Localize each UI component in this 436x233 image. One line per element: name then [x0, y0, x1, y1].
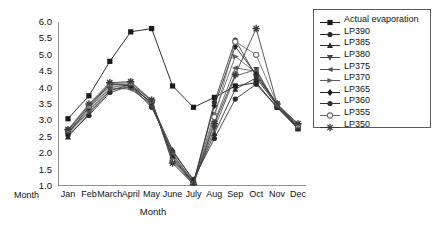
x-axis-tick-label: May — [143, 190, 160, 199]
chart-canvas — [58, 22, 306, 186]
x-axis-tick-label: April — [122, 190, 140, 199]
x-axis-tick-label: Feb — [81, 190, 97, 199]
data-point-marker — [254, 74, 259, 79]
series-line — [68, 47, 298, 183]
x-axis-tick-label: Aug — [206, 190, 222, 199]
data-point-marker — [170, 83, 175, 88]
data-point-marker — [232, 71, 239, 78]
legend-marker-icon — [319, 119, 341, 130]
x-axis-tick-label: Sep — [227, 190, 243, 199]
data-point-marker — [65, 116, 70, 121]
data-point-marker — [233, 96, 238, 101]
legend-symbol — [320, 43, 340, 49]
legend-item[interactable]: LP375 — [319, 60, 426, 72]
data-point-marker — [191, 105, 196, 110]
data-point-marker — [273, 100, 280, 107]
series-lp360 — [65, 37, 300, 186]
legend-marker-icon — [319, 37, 341, 48]
data-point-marker — [149, 26, 154, 31]
data-point-marker — [85, 100, 92, 107]
y-axis-tick-label: 4.5 — [26, 66, 52, 76]
legend-label: Actual evaporation — [341, 15, 419, 24]
legend-label: LP360 — [341, 96, 370, 105]
legend-symbol — [320, 20, 340, 25]
legend-marker-icon — [319, 49, 341, 60]
data-point-marker — [64, 126, 71, 133]
data-point-marker — [169, 159, 176, 166]
data-point-marker — [86, 93, 91, 98]
legend-label: LP350 — [341, 120, 370, 129]
data-point-marker — [212, 100, 217, 105]
y-axis-tick-label: 2.5 — [26, 132, 52, 142]
legend-item[interactable]: LP390 — [319, 26, 426, 38]
legend-marker-icon — [319, 61, 341, 72]
legend-label: LP355 — [341, 108, 370, 117]
data-point-marker — [252, 25, 259, 32]
legend-item[interactable]: LP360 — [319, 95, 426, 107]
chart-legend: Actual evaporationLP390LP385LP380LP375LP… — [313, 9, 431, 128]
series-lp350 — [64, 25, 301, 186]
legend-symbol — [320, 101, 340, 106]
legend-marker-icon — [319, 95, 341, 106]
data-point-marker — [294, 120, 301, 127]
x-axis-tick-label: March — [97, 190, 122, 199]
data-point-marker — [327, 67, 333, 72]
x-axis-tick-label: July — [185, 190, 201, 199]
legend-item[interactable]: LP385 — [319, 37, 426, 49]
series-actual-evaporation — [65, 26, 300, 131]
legend-label: LP365 — [341, 85, 370, 94]
series-line — [68, 78, 298, 181]
legend-marker-icon — [319, 72, 341, 83]
x-axis-tick-label: Dec — [290, 190, 306, 199]
legend-symbol — [320, 32, 340, 37]
legend-item[interactable]: LP355 — [319, 107, 426, 119]
y-axis-tick-label: 6.0 — [26, 17, 52, 27]
data-point-marker — [128, 29, 133, 34]
data-point-marker — [327, 20, 332, 25]
data-point-marker — [327, 101, 332, 106]
series-line — [68, 40, 298, 183]
legend-item[interactable]: Actual evaporation — [319, 14, 426, 26]
data-point-marker — [233, 39, 238, 44]
series-lp365 — [65, 43, 301, 186]
legend-item[interactable]: LP350 — [319, 118, 426, 130]
data-point-marker — [211, 120, 218, 127]
series-line — [68, 42, 298, 185]
x-axis-title: Month — [0, 206, 306, 217]
legend-marker-icon — [319, 84, 341, 95]
data-point-marker — [254, 82, 259, 87]
chart-figure: Evaporation mm3 6.05.55.04.54.03.53.02.5… — [0, 0, 436, 233]
x-axis-left-label: Month — [14, 190, 39, 200]
x-axis-tick-label: Nov — [269, 190, 285, 199]
legend-item[interactable]: LP380 — [319, 49, 426, 61]
x-axis-tick-label: June — [163, 190, 183, 199]
data-point-marker — [327, 78, 333, 83]
series-line — [68, 56, 298, 182]
data-point-marker — [107, 59, 112, 64]
y-axis-tick-label: 5.5 — [26, 33, 52, 43]
y-axis-tick-label: 4.0 — [26, 83, 52, 93]
legend-item[interactable]: LP365 — [319, 84, 426, 96]
legend-symbol — [320, 123, 340, 130]
legend-item[interactable]: LP370 — [319, 72, 426, 84]
x-axis-tick-labels: JanFebMarchAprilMayJuneJulyAugSepOctNovD… — [58, 190, 306, 204]
plot-area — [58, 22, 306, 186]
data-point-marker — [327, 113, 332, 118]
legend-label: LP380 — [341, 50, 370, 59]
y-axis-tick-label: 5.0 — [26, 50, 52, 60]
legend-marker-icon — [319, 14, 341, 25]
legend-label: LP370 — [341, 73, 370, 82]
data-point-marker — [327, 32, 332, 37]
legend-label: LP390 — [341, 27, 370, 36]
legend-symbol — [320, 113, 340, 118]
data-point-marker — [106, 79, 113, 86]
legend-symbol — [320, 67, 340, 72]
legend-marker-icon — [319, 107, 341, 118]
y-axis-tick-label: 1.5 — [26, 165, 52, 175]
data-point-marker — [127, 78, 134, 85]
data-point-marker — [148, 96, 155, 103]
x-axis-tick-label: Oct — [249, 190, 263, 199]
y-axis-tick-labels: 6.05.55.04.54.03.53.02.52.01.51.0 — [24, 22, 52, 186]
y-axis-tick-label: 3.5 — [26, 99, 52, 109]
x-axis-tick-label: Jan — [61, 190, 76, 199]
